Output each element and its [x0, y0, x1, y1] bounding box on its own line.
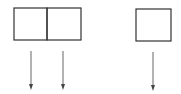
box-left-a: [14, 8, 47, 40]
box-left-b: [47, 8, 81, 40]
arrowhead-icon: [29, 84, 33, 90]
left-box-group: [14, 8, 81, 40]
arrow-3: [151, 52, 155, 91]
arrow-2: [61, 51, 65, 90]
arrowhead-icon: [61, 84, 65, 90]
arrowhead-icon: [151, 85, 155, 91]
arrow-1: [29, 51, 33, 90]
box-right: [136, 9, 171, 41]
diagram-canvas: [0, 0, 181, 94]
